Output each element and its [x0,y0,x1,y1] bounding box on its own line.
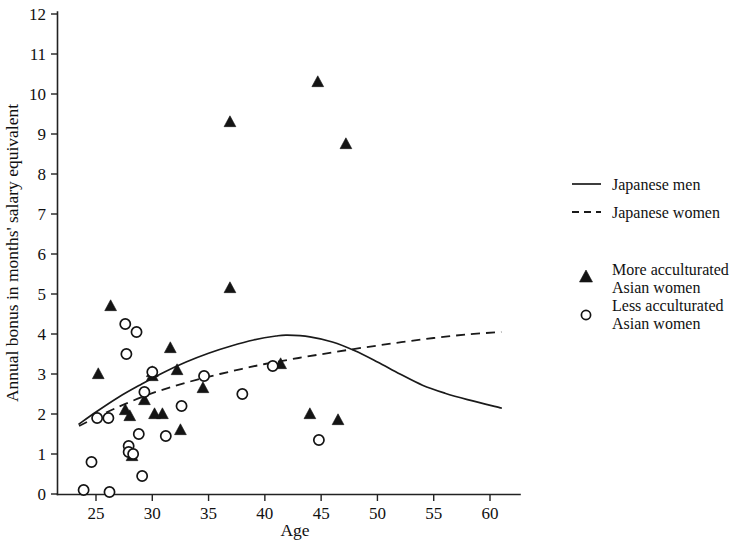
data-point-circle [128,449,138,459]
y-tick-label: 6 [38,245,47,264]
x-tick-label: 45 [313,504,330,523]
data-point-triangle [157,408,169,419]
data-markers-less-acculturated [79,319,324,497]
legend-label-more-acculturated-2: Asian women [612,279,700,296]
data-point-circle [268,361,278,371]
x-tick-label: 30 [144,504,161,523]
data-point-circle [199,371,209,381]
y-tick-label: 4 [38,325,47,344]
x-tick-label: 35 [200,504,217,523]
y-axis-ticks: 0123456789101112 [29,5,58,504]
data-point-circle [104,487,114,497]
chart-figure: 0123456789101112 2530354045505560 Age An… [0,0,733,545]
y-tick-label: 0 [38,485,47,504]
x-tick-label: 40 [256,504,273,523]
x-tick-label: 60 [482,504,499,523]
x-axis-title: Age [280,520,309,540]
legend-swatch-circle-icon [581,310,590,319]
data-point-circle [314,435,324,445]
data-point-triangle [175,424,187,435]
data-point-triangle [92,368,104,379]
data-point-triangle [197,382,209,393]
data-point-circle [147,367,157,377]
y-tick-label: 9 [38,125,47,144]
legend-label-less-acculturated-1: Less acculturated [612,297,724,314]
data-point-triangle [224,116,236,127]
data-point-circle [103,413,113,423]
data-point-circle [121,349,131,359]
data-point-circle [237,389,247,399]
y-axis-title: Annual bonus in months' salary equivalen… [2,104,22,402]
data-point-circle [92,413,102,423]
y-tick-label: 1 [38,445,47,464]
legend: Japanese men Japanese women More accultu… [572,176,729,332]
data-point-circle [137,471,147,481]
x-tick-label: 25 [88,504,105,523]
data-point-circle [131,327,141,337]
legend-label-more-acculturated-1: More acculturated [612,261,729,278]
scatter-plot: 0123456789101112 2530354045505560 Age An… [0,0,733,545]
data-point-circle [176,401,186,411]
legend-label-japanese-men: Japanese men [612,176,700,194]
data-point-circle [86,457,96,467]
x-tick-label: 55 [425,504,442,523]
legend-label-japanese-women: Japanese women [612,204,720,222]
fit-line-japanese-men [79,335,501,424]
x-tick-label: 50 [369,504,386,523]
data-point-triangle [171,364,183,375]
data-point-triangle [312,76,324,87]
data-point-triangle [105,300,117,311]
y-tick-label: 5 [38,285,47,304]
x-axis-ticks: 2530354045505560 [88,494,499,523]
fit-line-japanese-women [79,332,501,426]
data-point-circle [161,431,171,441]
legend-swatch-triangle-icon [580,270,593,282]
data-point-circle [134,429,144,439]
data-point-circle [79,485,89,495]
data-point-triangle [332,414,344,425]
y-tick-label: 12 [29,5,46,24]
data-point-triangle [304,408,316,419]
data-point-circle [120,319,130,329]
data-point-circle [139,387,149,397]
y-tick-label: 2 [38,405,47,424]
y-tick-label: 8 [38,165,47,184]
y-tick-label: 3 [38,365,47,384]
data-point-triangle [340,138,352,149]
y-tick-label: 7 [38,205,47,224]
y-tick-label: 11 [30,45,46,64]
y-tick-label: 10 [29,85,46,104]
data-point-triangle [164,342,176,353]
data-markers-more-acculturated [92,76,351,461]
data-point-triangle [224,282,236,293]
legend-label-less-acculturated-2: Asian women [612,315,700,332]
